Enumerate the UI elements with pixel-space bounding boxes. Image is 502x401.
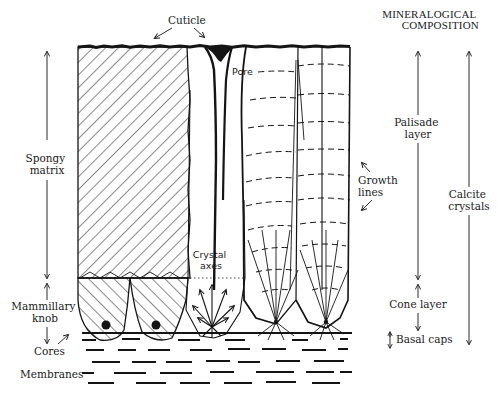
core-dot: [102, 321, 111, 330]
spongy-matrix-label: Spongy matrix: [26, 152, 69, 176]
palisade-columns: [242, 47, 351, 340]
palisade-layer-label: Palisade layer: [394, 116, 442, 140]
membranes-label: Membranes: [20, 368, 83, 380]
cuticle-line: [78, 46, 350, 48]
crystal-axes-label: Crystal axes: [193, 249, 229, 271]
membranes-layer: [82, 339, 352, 383]
eggshell-structure-diagram: Cuticle Pore Spongy matrix Mammillary kn…: [0, 0, 502, 401]
mammillary-knob-label: Mammillary knob: [11, 300, 79, 324]
core-dot: [152, 321, 161, 330]
basal-caps-label: Basal caps: [396, 333, 453, 345]
mineralogical-composition-heading: MINERALOGICAL COMPOSITION: [382, 8, 479, 31]
cuticle-label: Cuticle: [168, 14, 206, 26]
mammillary-knobs: [78, 272, 188, 340]
growth-lines-label: Growth lines: [358, 174, 401, 198]
cores-label: Cores: [34, 345, 65, 357]
cone-layer-label: Cone layer: [389, 298, 447, 310]
spongy-matrix-region: [78, 47, 190, 278]
pore-label: Pore: [232, 66, 253, 77]
calcite-crystals-label: Calcite crystals: [448, 188, 489, 212]
